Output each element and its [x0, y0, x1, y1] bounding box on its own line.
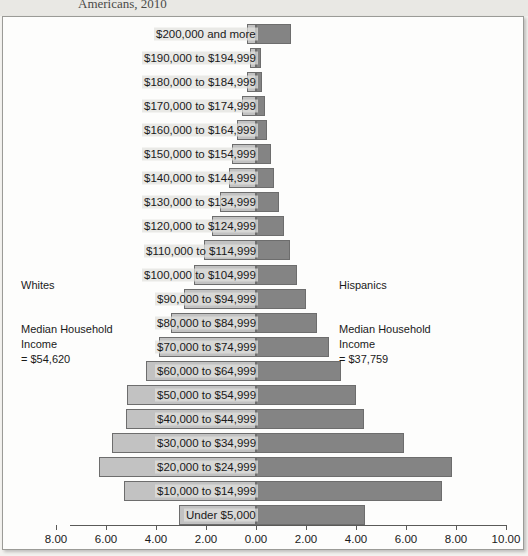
x-axis-tick: [306, 525, 307, 530]
category-label: $50,000 to $54,999: [155, 388, 258, 401]
bar-hispanics: [256, 409, 364, 429]
x-axis-tick: [406, 525, 407, 530]
x-axis-tick: [56, 525, 57, 530]
category-label: $70,000 to $74,999: [155, 340, 258, 353]
bar-hispanics: [256, 505, 365, 525]
x-axis-tick: [106, 525, 107, 530]
bar-hispanics: [256, 192, 279, 212]
pyramid-row: $130,000 to $134,999: [3, 190, 523, 214]
category-label: $20,000 to $24,999: [155, 460, 258, 473]
x-axis-tick-label: 6.00: [395, 533, 417, 545]
pyramid-row: $160,000 to $164,999: [3, 118, 523, 142]
category-label: $140,000 to $144,999: [142, 172, 258, 185]
bar-hispanics: [256, 144, 271, 164]
x-axis-line: [70, 525, 507, 526]
bar-hispanics: [256, 337, 329, 357]
pyramid-row: $50,000 to $54,999: [3, 383, 523, 407]
pyramid-row: $40,000 to $44,999: [3, 407, 523, 431]
bar-hispanics: [256, 240, 290, 260]
x-axis-tick-label: 4.00: [145, 533, 167, 545]
pyramid-row: $150,000 to $154,999: [3, 142, 523, 166]
category-label: $130,000 to $134,999: [142, 196, 258, 209]
category-label: $30,000 to $34,999: [155, 436, 258, 449]
x-axis-tick-label: 10.00: [492, 533, 521, 545]
category-label: $200,000 and more: [154, 28, 258, 41]
category-label: $40,000 to $44,999: [155, 412, 258, 425]
x-axis-tick-label: 2.00: [195, 533, 217, 545]
pyramid-row: $180,000 to $184,999: [3, 70, 523, 94]
annotation-hispanics-median: Median Household Income = $37,759: [339, 322, 431, 367]
category-label: $80,000 to $84,999: [155, 316, 258, 329]
page-title: Americans, 2010: [78, 0, 167, 12]
annotation-whites: Whites Median Household Income = $54,620: [21, 263, 113, 382]
pyramid-row: $140,000 to $144,999: [3, 166, 523, 190]
category-label: $60,000 to $64,999: [155, 364, 258, 377]
category-label: $170,000 to $174,999: [142, 100, 258, 113]
category-label: $180,000 to $184,999: [142, 76, 258, 89]
bar-hispanics: [256, 216, 284, 236]
pyramid-row: $30,000 to $34,999: [3, 431, 523, 455]
category-label: $100,000 to $104,999: [142, 268, 258, 281]
bar-hispanics: [256, 24, 291, 44]
pyramid-row: $110,000 to $114,999: [3, 238, 523, 262]
x-axis-tick: [256, 525, 257, 530]
clipped-title-strip: Americans, 2010: [0, 0, 528, 16]
category-label: $190,000 to $194,999: [142, 52, 258, 65]
bar-hispanics: [256, 265, 297, 285]
bar-hispanics: [256, 385, 356, 405]
x-axis-tick-label: 8.00: [45, 533, 67, 545]
bar-hispanics: [256, 457, 452, 477]
pyramid-row: $170,000 to $174,999: [3, 94, 523, 118]
x-axis-tick-label: 6.00: [95, 533, 117, 545]
bar-hispanics: [256, 433, 404, 453]
category-label: $10,000 to $14,999: [155, 485, 258, 498]
annotation-hispanics: Hispanics Median Household Income = $37,…: [339, 263, 431, 382]
x-axis-tick-label: 8.00: [445, 533, 467, 545]
chart-card: $200,000 and more$190,000 to $194,999$18…: [2, 16, 524, 550]
x-axis-tick-label: 4.00: [345, 533, 367, 545]
bar-hispanics: [256, 313, 317, 333]
x-axis-tick-label: 0.00: [245, 533, 267, 545]
x-axis-tick: [456, 525, 457, 530]
category-label: $160,000 to $164,999: [142, 124, 258, 137]
pyramid-row: $200,000 and more: [3, 22, 523, 46]
bar-hispanics: [256, 168, 274, 188]
x-axis-tick: [206, 525, 207, 530]
pyramid-row: $120,000 to $124,999: [3, 214, 523, 238]
annotation-whites-group: Whites: [21, 278, 113, 293]
pyramid-row: $10,000 to $14,999: [3, 479, 523, 503]
bar-hispanics: [256, 481, 442, 501]
bar-hispanics: [256, 289, 306, 309]
x-axis-tick: [156, 525, 157, 530]
pyramid-row: Under $5,000: [3, 503, 523, 527]
category-label: $90,000 to $94,999: [155, 292, 258, 305]
annotation-hispanics-group: Hispanics: [339, 278, 431, 293]
category-label: $150,000 to $154,999: [142, 148, 258, 161]
category-label: $110,000 to $114,999: [144, 244, 258, 257]
x-axis-tick: [356, 525, 357, 530]
category-label: $120,000 to $124,999: [142, 220, 258, 233]
bar-hispanics: [256, 361, 341, 381]
x-axis-tick-label: 2.00: [295, 533, 317, 545]
pyramid-row: $20,000 to $24,999: [3, 455, 523, 479]
x-axis-tick: [506, 525, 507, 530]
annotation-whites-median: Median Household Income = $54,620: [21, 322, 113, 367]
pyramid-row: $190,000 to $194,999: [3, 46, 523, 70]
category-label: Under $5,000: [184, 509, 258, 522]
scan-page-background: Americans, 2010 $200,000 and more$190,00…: [0, 0, 528, 556]
